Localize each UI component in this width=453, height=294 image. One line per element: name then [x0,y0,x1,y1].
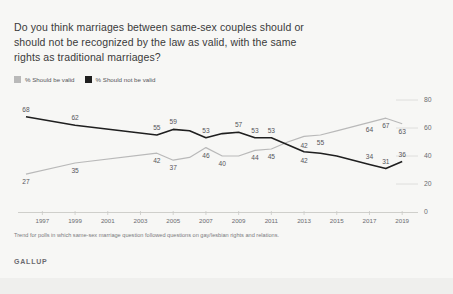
data-label: 36 [399,151,406,158]
data-label: 68 [22,106,29,113]
legend-swatch-valid [14,76,21,83]
data-label: 53 [268,127,275,134]
data-label: 42 [300,157,307,164]
data-label: 31 [382,158,389,165]
data-label: 67 [382,122,389,129]
data-label: 45 [268,153,275,160]
data-label: 63 [399,128,406,135]
x-axis-tick-label: 2003 [134,217,148,224]
chart-card: Do you think marriages between same-sex … [0,0,453,278]
data-label: 44 [251,154,258,161]
data-label: 40 [219,160,226,167]
data-label: 46 [202,152,209,159]
data-label: 53 [202,127,209,134]
data-label: 55 [317,139,324,146]
x-axis-tick-label: 2019 [395,217,409,224]
data-label: 57 [235,121,242,128]
data-label: 34 [366,153,373,160]
data-label: 59 [170,118,177,125]
data-label: 35 [71,167,78,174]
footer-strip [0,278,453,294]
chart-footnote: Trend for polls in which same-sex marria… [14,231,284,240]
y-axis-tick-label: 60 [424,124,432,131]
chart-legend: % Should be valid % Should not be valid [14,76,155,83]
gallup-logo: GALLUP [14,258,48,265]
chart-plot-area [14,92,418,212]
data-label: 37 [170,164,177,171]
data-label: 42 [153,157,160,164]
x-axis-tick-label: 2007 [199,217,213,224]
data-label: 64 [366,126,373,133]
y-axis-tick-label: 0 [424,208,428,215]
page-title: Do you think marriages between same-sex … [14,20,314,65]
x-axis-tick-label: 2017 [363,217,377,224]
x-axis-tick-label: 1997 [35,217,49,224]
data-label: 55 [153,124,160,131]
x-axis-tick-label: 2015 [330,217,344,224]
legend-label-not-valid: % Should not be valid [96,76,156,83]
line-chart-svg [14,92,418,212]
y-axis-tick-label: 80 [424,96,432,103]
legend-swatch-not-valid [85,76,92,83]
x-axis-tick-label: 1999 [68,217,82,224]
data-label: 27 [22,178,29,185]
x-axis-tick-label: 2011 [265,217,278,224]
y-axis-tick-label: 40 [424,152,432,159]
data-label: 42 [300,142,307,149]
y-axis-tick-label: 20 [424,180,432,187]
x-axis-tick-label: 2005 [166,217,180,224]
data-label: 62 [71,114,78,121]
series-line-not-valid [26,117,402,169]
legend-item-valid[interactable]: % Should be valid [14,76,75,83]
x-axis-labels: 1997199920012003200520072009201120132015… [14,213,418,225]
x-axis-tick-label: 2009 [232,217,246,224]
data-label: 53 [251,127,258,134]
legend-label-valid: % Should be valid [25,76,75,83]
legend-item-not-valid[interactable]: % Should not be valid [85,76,156,83]
x-axis-tick-label: 2013 [297,217,311,224]
x-axis-tick-label: 2001 [101,217,115,224]
